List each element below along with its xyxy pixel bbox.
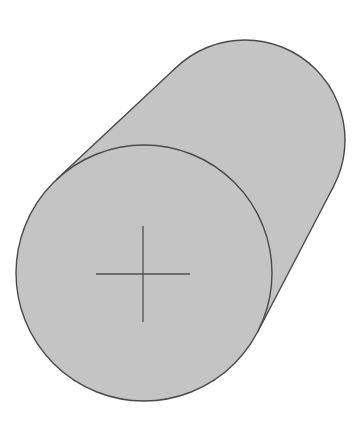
cylinder-diagram — [0, 0, 359, 421]
cylinder-front-face — [16, 145, 272, 401]
